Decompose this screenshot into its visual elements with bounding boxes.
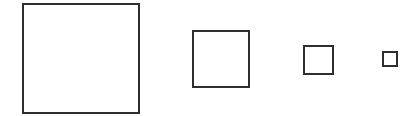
square-tiny bbox=[383, 52, 397, 66]
square-medium bbox=[193, 31, 249, 87]
squares-diagram bbox=[0, 0, 419, 116]
square-small bbox=[304, 46, 333, 74]
square-large bbox=[23, 4, 139, 113]
